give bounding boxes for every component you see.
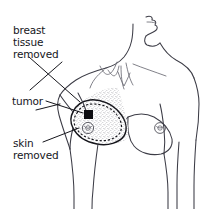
label-breast-tissue-removed-line2: tissue (13, 36, 43, 48)
label-breast-tissue-removed-line1: breast (13, 24, 45, 36)
anatomy-illustration: breast tissue removed tumor skin removed (0, 0, 220, 209)
tumor-marker (84, 110, 93, 119)
label-skin-removed-line2: removed (13, 149, 59, 161)
label-tumor: tumor (12, 95, 44, 107)
label-breast-tissue-removed-line3: removed (13, 48, 59, 60)
illustration-canvas: breast tissue removed tumor skin removed (0, 0, 220, 209)
label-skin-removed-line1: skin (13, 137, 34, 149)
